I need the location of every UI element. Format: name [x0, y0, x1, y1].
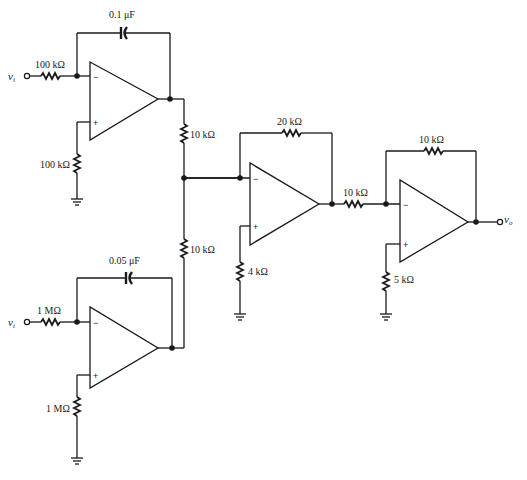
- op-amp-2: [90, 307, 158, 388]
- inverting-input-sign: −: [93, 72, 98, 82]
- op-amp-3: [250, 163, 319, 245]
- noninv-resistor-3: [237, 262, 243, 281]
- input-label-2: vi: [8, 316, 15, 330]
- input-terminal-2: [24, 319, 29, 324]
- input-resistor-1: [41, 73, 60, 79]
- input-terminal-1: [24, 73, 29, 78]
- noninverting-input-sign: +: [93, 371, 98, 381]
- noninv-resistor-2-label: 1 MΩ: [46, 403, 70, 414]
- noninv-resistor-4-label: 5 kΩ: [394, 274, 414, 285]
- summing-amplifier-stage: 20 kΩ − + 4 kΩ 10 kΩ: [234, 116, 400, 320]
- ground-icon: [71, 199, 83, 205]
- feedback-resistor-3-label: 20 kΩ: [277, 116, 302, 127]
- input-label-1: vi: [8, 70, 15, 84]
- noninv-resistor-3-label: 4 kΩ: [248, 266, 268, 277]
- ground-icon: [380, 314, 392, 320]
- ground-icon: [71, 458, 83, 464]
- output-node-1: [167, 96, 173, 102]
- output-node-2: [169, 345, 175, 351]
- output-terminal: [497, 219, 502, 224]
- feedback-capacitor-1-label: 0.1 μF: [109, 9, 135, 20]
- input-resistor-2-label: 1 MΩ: [37, 305, 61, 316]
- output-node-4: [473, 219, 479, 225]
- inverting-input-sign: −: [403, 200, 408, 210]
- summing-resistor-1-label: 10 kΩ: [190, 129, 215, 140]
- series-resistor-3: [344, 201, 363, 207]
- series-resistor-3-label: 10 kΩ: [343, 187, 368, 198]
- op-amp-1: [90, 62, 158, 140]
- integrator-stage-1: vi 100 kΩ 0.1 μF − + 100 kΩ: [8, 9, 184, 205]
- summing-resistor-2-label: 10 kΩ: [190, 244, 215, 255]
- input-resistor-2: [41, 319, 60, 325]
- op-amp-4: [400, 180, 468, 262]
- feedback-resistor-3: [282, 130, 301, 136]
- inverting-input-sign: −: [93, 318, 98, 328]
- output-label: vo: [504, 213, 513, 227]
- summing-resistor-2: 10 kΩ: [181, 178, 240, 348]
- inverting-amplifier-stage: 10 kΩ − + vo 5 kΩ: [380, 134, 513, 320]
- feedback-capacitor-2-label: 0.05 μF: [109, 255, 140, 266]
- noninv-resistor-1-label: 100 kΩ: [40, 159, 70, 170]
- ground-icon: [234, 314, 246, 320]
- noninverting-input-sign: +: [253, 222, 258, 232]
- feedback-resistor-4: [424, 148, 443, 154]
- summing-resistor-1: 10 kΩ: [181, 99, 215, 178]
- input-resistor-1-label: 100 kΩ: [35, 59, 65, 70]
- feedback-resistor-4-label: 10 kΩ: [419, 134, 444, 145]
- noninv-resistor-4: [383, 272, 389, 291]
- noninv-resistor-2: [74, 397, 80, 416]
- noninv-resistor-1: [74, 154, 80, 173]
- circuit-schematic: vi 100 kΩ 0.1 μF − + 100 kΩ: [0, 0, 527, 480]
- noninverting-input-sign: +: [93, 118, 98, 128]
- noninverting-input-sign: +: [403, 240, 408, 250]
- integrator-stage-2: vi 1 MΩ 0.05 μF − + 1 MΩ: [8, 255, 184, 464]
- output-node-3: [329, 201, 335, 207]
- inverting-input-sign: −: [253, 174, 258, 184]
